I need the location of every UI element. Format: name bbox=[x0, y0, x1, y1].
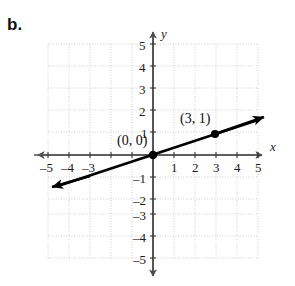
y-tick-label-2: 2 bbox=[139, 105, 146, 118]
data-point-origin bbox=[149, 151, 158, 160]
x-tick-label-4: 4 bbox=[234, 161, 241, 174]
y-tick-label-neg-3: –3 bbox=[133, 209, 146, 222]
part-label: b. bbox=[7, 16, 22, 33]
y-tick-label-neg-1: –1 bbox=[133, 172, 146, 185]
x-tick-label-neg-3: –3 bbox=[82, 161, 95, 174]
y-tick-label-3: 3 bbox=[139, 83, 146, 96]
coordinate-plane bbox=[0, 0, 295, 286]
x-tick-label-neg-4: –4 bbox=[61, 161, 74, 174]
annotation-3-1: (3, 1) bbox=[180, 112, 210, 126]
x-tick-label-5: 5 bbox=[255, 161, 262, 174]
x-tick-label-neg-5: –5 bbox=[40, 161, 53, 174]
data-point-3-1 bbox=[211, 130, 219, 138]
annotation-origin: (0, 0) bbox=[117, 134, 147, 148]
y-tick-label-neg-2: –2 bbox=[133, 194, 146, 207]
x-axis-label: x bbox=[270, 140, 276, 153]
y-tick-label-5: 5 bbox=[139, 39, 146, 52]
y-tick-label-neg-4: –4 bbox=[133, 231, 146, 244]
y-axis-label: y bbox=[161, 27, 167, 40]
y-tick-label-4: 4 bbox=[139, 61, 146, 74]
x-tick-label-1: 1 bbox=[171, 161, 178, 174]
x-tick-label-3: 3 bbox=[213, 161, 220, 174]
y-tick-label-neg-5: –5 bbox=[133, 253, 146, 266]
graph-figure: b. bbox=[0, 0, 295, 286]
plotted-line bbox=[52, 117, 264, 187]
x-tick-label-2: 2 bbox=[192, 161, 199, 174]
